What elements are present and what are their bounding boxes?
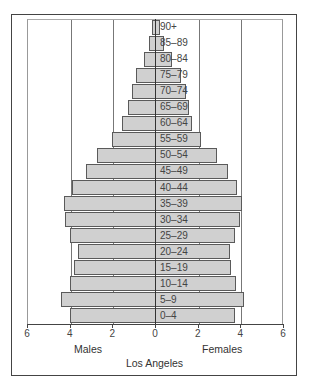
males-label: Males xyxy=(74,343,102,355)
age-group-label: 50–54 xyxy=(160,147,188,163)
bar-male xyxy=(74,260,156,275)
x-tick-label: 0 xyxy=(145,328,165,339)
bar-male xyxy=(65,212,156,227)
bar-male xyxy=(72,180,156,195)
age-group-label: 45–49 xyxy=(160,163,188,179)
age-group-label: 35–39 xyxy=(160,196,188,212)
age-group-label: 55–59 xyxy=(160,131,188,147)
bar-male xyxy=(70,228,156,243)
age-group-label: 75–79 xyxy=(160,67,188,83)
bar-male xyxy=(128,100,156,115)
age-group-label: 0–4 xyxy=(160,308,177,324)
bar-male xyxy=(78,244,156,259)
bar-male xyxy=(70,308,156,323)
bar-male xyxy=(97,148,156,163)
age-group-label: 70–74 xyxy=(160,83,188,99)
x-tick-label: 2 xyxy=(188,328,208,339)
x-tick-label: 6 xyxy=(17,328,37,339)
age-group-label: 10–14 xyxy=(160,276,188,292)
age-group-label: 65–69 xyxy=(160,99,188,115)
age-group-label: 60–64 xyxy=(160,115,188,131)
x-tick-label: 6 xyxy=(273,328,293,339)
x-tick-label: 4 xyxy=(230,328,250,339)
x-tick-label: 4 xyxy=(60,328,80,339)
age-group-label: 25–29 xyxy=(160,228,188,244)
age-group-label: 20–24 xyxy=(160,244,188,260)
bar-male xyxy=(70,276,156,291)
bar-male xyxy=(86,164,156,179)
bar-male xyxy=(64,196,156,211)
bar-male xyxy=(112,132,156,147)
center-axis-line xyxy=(155,19,156,324)
age-group-label: 85–89 xyxy=(160,35,188,51)
females-label: Females xyxy=(202,343,242,355)
bar-male xyxy=(132,84,156,99)
bar-male xyxy=(136,68,156,83)
age-group-label: 90+ xyxy=(160,19,177,35)
age-group-label: 15–19 xyxy=(160,260,188,276)
age-group-label: 5–9 xyxy=(160,292,177,308)
bar-male xyxy=(122,116,156,131)
bar-male xyxy=(61,292,156,307)
age-group-label: 40–44 xyxy=(160,180,188,196)
x-tick-label: 2 xyxy=(102,328,122,339)
chart-title: Los Angeles xyxy=(0,357,309,369)
age-group-label: 80–84 xyxy=(160,51,188,67)
age-group-label: 30–34 xyxy=(160,212,188,228)
gridline xyxy=(241,20,242,324)
